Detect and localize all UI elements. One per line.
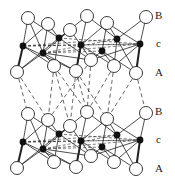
atom-B [81, 106, 94, 119]
atom-B [42, 18, 55, 31]
label-bottom-c: c [156, 134, 161, 145]
atom-B [81, 10, 94, 23]
atom-c [40, 50, 47, 57]
atom-c [40, 146, 47, 153]
atom-B [101, 113, 114, 126]
label-bottom-B: B [155, 106, 162, 117]
atom-B [64, 120, 77, 133]
atom-A [70, 161, 83, 174]
atom-A [130, 163, 143, 176]
atom-A [48, 60, 61, 73]
atom-A [11, 66, 24, 79]
atom-A [70, 65, 83, 78]
atom-c [99, 48, 106, 55]
atom-c [137, 41, 144, 48]
atom-c [78, 42, 85, 49]
atom-c [114, 36, 121, 43]
atom-A [48, 156, 61, 169]
atom-B [140, 107, 153, 120]
atom-B [140, 11, 153, 24]
label-top-B: B [155, 10, 162, 21]
atom-A [108, 156, 121, 169]
atom-A [130, 67, 143, 80]
atom-c [56, 131, 63, 138]
atom-c [78, 138, 85, 145]
crystal-structure-diagram: B c A B c A [0, 0, 175, 188]
diagram-canvas [0, 0, 175, 188]
label-top-A: A [155, 67, 163, 78]
label-top-c: c [156, 38, 161, 49]
atom-c [137, 137, 144, 144]
atom-B [101, 17, 114, 30]
atom-c [20, 139, 27, 146]
atom-c [20, 43, 27, 50]
label-bottom-A: A [155, 163, 163, 174]
atom-B [22, 108, 35, 121]
atom-A [85, 150, 98, 163]
atom-c [114, 132, 121, 139]
atom-A [108, 60, 121, 73]
atom-c [56, 35, 63, 42]
atom-B [42, 114, 55, 127]
atom-A [85, 54, 98, 67]
atom-c [99, 144, 106, 151]
atom-B [22, 12, 35, 25]
atom-B [64, 24, 77, 37]
atom-A [11, 162, 24, 175]
